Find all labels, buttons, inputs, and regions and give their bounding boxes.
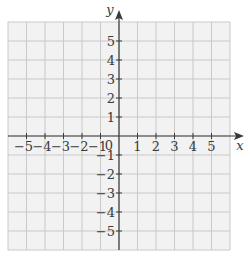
- y-tick-label: 3: [107, 72, 115, 87]
- x-tick-label: −4: [32, 139, 51, 154]
- x-axis-label: x: [236, 138, 244, 153]
- x-tick-label: 2: [152, 139, 160, 154]
- y-tick-label: −2: [96, 167, 115, 182]
- x-tick-label: 5: [207, 139, 215, 154]
- x-tick-label: −5: [14, 139, 33, 154]
- y-tick-label: −5: [96, 224, 115, 239]
- x-tick-label: 1: [133, 139, 141, 154]
- x-tick-label: 3: [170, 139, 178, 154]
- x-tick-label: −3: [51, 139, 70, 154]
- y-tick-label: 4: [107, 53, 115, 68]
- y-tick-label: 2: [107, 91, 115, 106]
- x-tick-label: 4: [189, 139, 197, 154]
- y-tick-label: 1: [107, 110, 115, 125]
- origin-label: 0: [105, 138, 113, 153]
- y-tick-label: −3: [96, 186, 115, 201]
- y-tick-label: 5: [107, 34, 115, 49]
- x-tick-label: −2: [69, 139, 88, 154]
- y-axis-label: y: [105, 2, 114, 17]
- y-tick-label: −4: [96, 205, 115, 220]
- coordinate-plane: −5−4−3−2−112345 54321−1−2−3−4−5 0 x y: [0, 0, 250, 259]
